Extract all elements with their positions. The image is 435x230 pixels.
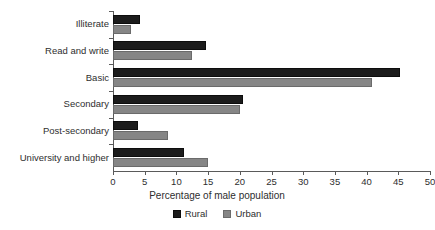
bar-row-urban bbox=[113, 105, 430, 114]
bar-urban bbox=[113, 131, 168, 140]
x-axis-tick-label: 30 bbox=[298, 176, 309, 188]
x-axis-tick bbox=[208, 171, 209, 175]
x-axis-tick bbox=[240, 171, 241, 175]
legend-swatch-rural-icon bbox=[173, 210, 181, 218]
bar-rural bbox=[113, 95, 243, 104]
legend-swatch-urban-icon bbox=[223, 210, 231, 218]
y-axis-tick bbox=[109, 91, 113, 92]
x-axis-tick-label: 45 bbox=[393, 176, 404, 188]
x-axis-tick-label: 15 bbox=[203, 176, 214, 188]
x-axis-tick bbox=[398, 171, 399, 175]
bar-row-rural bbox=[113, 41, 430, 50]
bar-row-rural bbox=[113, 148, 430, 157]
x-axis-tick bbox=[367, 171, 368, 175]
x-axis-tick-label: 50 bbox=[425, 176, 435, 188]
y-axis-tick bbox=[109, 38, 113, 39]
bar-group bbox=[113, 118, 430, 145]
bar-group bbox=[113, 38, 430, 65]
legend-label-urban: Urban bbox=[235, 208, 261, 219]
bar-row-urban bbox=[113, 131, 430, 140]
bar-group bbox=[113, 144, 430, 171]
x-axis-tick bbox=[272, 171, 273, 175]
x-axis-tick bbox=[430, 171, 431, 175]
y-axis-label: Read and write bbox=[45, 45, 109, 56]
x-axis-tick bbox=[335, 171, 336, 175]
y-axis-label: Basic bbox=[86, 72, 109, 83]
bar-group bbox=[113, 91, 430, 118]
bar-row-rural bbox=[113, 15, 430, 24]
x-axis-title: Percentage of male population bbox=[0, 190, 434, 201]
chart-legend: Rural Urban bbox=[0, 208, 434, 219]
bar-urban bbox=[113, 78, 372, 87]
bar-row-urban bbox=[113, 158, 430, 167]
x-axis-tick-label: 35 bbox=[330, 176, 341, 188]
x-axis-tick-label: 20 bbox=[235, 176, 246, 188]
y-axis-tick bbox=[109, 118, 113, 119]
bar-rural bbox=[113, 41, 206, 50]
bar-group bbox=[113, 11, 430, 38]
plot-area bbox=[113, 11, 430, 171]
y-axis-tick bbox=[109, 11, 113, 12]
y-axis-tick bbox=[109, 144, 113, 145]
bar-urban bbox=[113, 105, 240, 114]
x-axis-tick-label: 25 bbox=[266, 176, 277, 188]
x-axis-tick-label: 5 bbox=[142, 176, 147, 188]
bar-rural bbox=[113, 68, 400, 77]
bar-urban bbox=[113, 158, 208, 167]
bar-group bbox=[113, 64, 430, 91]
legend-label-rural: Rural bbox=[185, 208, 208, 219]
x-axis-tick-label: 10 bbox=[171, 176, 182, 188]
y-axis-tick bbox=[109, 64, 113, 65]
y-axis-label: Post-secondary bbox=[43, 125, 109, 136]
x-axis-tick-label: 40 bbox=[361, 176, 372, 188]
bar-rural bbox=[113, 15, 140, 24]
bar-urban bbox=[113, 51, 192, 60]
x-axis-tick bbox=[145, 171, 146, 175]
bar-row-urban bbox=[113, 25, 430, 34]
y-axis-label: Illiterate bbox=[76, 18, 109, 29]
x-axis-tick bbox=[113, 171, 114, 175]
y-axis-label: University and higher bbox=[20, 152, 109, 163]
bar-row-rural bbox=[113, 121, 430, 130]
y-axis-label: Secondary bbox=[64, 98, 109, 109]
x-axis-tick bbox=[176, 171, 177, 175]
bar-row-urban bbox=[113, 78, 430, 87]
bar-rural bbox=[113, 148, 184, 157]
bar-row-urban bbox=[113, 51, 430, 60]
x-axis-tick-label: 0 bbox=[110, 176, 115, 188]
bar-urban bbox=[113, 25, 131, 34]
legend-item-rural: Rural bbox=[173, 208, 208, 219]
bar-row-rural bbox=[113, 95, 430, 104]
x-axis-tick bbox=[303, 171, 304, 175]
legend-item-urban: Urban bbox=[223, 208, 261, 219]
bar-row-rural bbox=[113, 68, 430, 77]
bar-rural bbox=[113, 121, 138, 130]
